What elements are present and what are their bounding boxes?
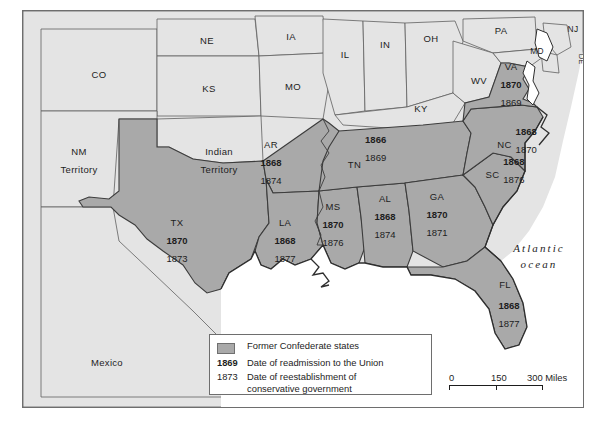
scale-label-150: 150 (491, 372, 507, 383)
legend-row-readmission: 1869 Date of readmission to the Union (217, 357, 425, 368)
scale-label-300: 300 Miles (527, 372, 567, 383)
scale-rule (449, 385, 543, 391)
confederate-color-swatch (217, 343, 235, 354)
scale-tick-0 (449, 385, 450, 390)
map-legend: Former Confederate states 1869 Date of r… (209, 334, 432, 395)
map-scale-bar: 0 150 300 Miles (449, 372, 569, 391)
legend-row-conservative: 1873 Date of reestablishment of conserva… (217, 371, 425, 394)
legend-key-conservative: 1873 (217, 371, 247, 382)
legend-label-conservative: Date of reestablishment of conservative … (247, 371, 356, 394)
scale-numbers: 0 150 300 Miles (449, 372, 569, 384)
scale-tick-mid (496, 385, 497, 390)
legend-swatch-cell (217, 340, 247, 354)
scale-tick-end (542, 385, 543, 390)
legend-key-readmission: 1869 (217, 357, 247, 368)
scale-label-0: 0 (449, 372, 454, 383)
legend-label-readmission: Date of readmission to the Union (247, 357, 384, 368)
ocean-label: Atlantic ocean (513, 241, 565, 273)
map-figure: .cf { fill:#a9a9a9; stroke:#3c3c3c; stro… (0, 0, 608, 433)
state-label-de: DE (577, 54, 585, 65)
legend-row-confederate: Former Confederate states (217, 340, 425, 354)
legend-label-confederate: Former Confederate states (247, 340, 359, 351)
